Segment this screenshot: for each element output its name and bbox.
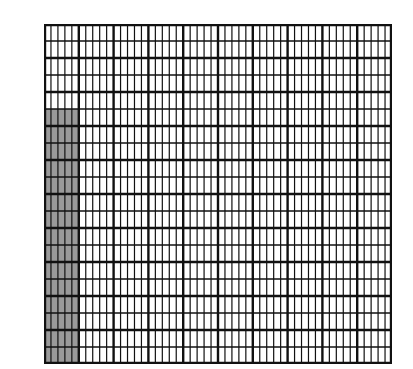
grid-model	[44, 24, 392, 364]
shaded-region	[44, 109, 79, 364]
grid-drawing	[44, 24, 392, 364]
